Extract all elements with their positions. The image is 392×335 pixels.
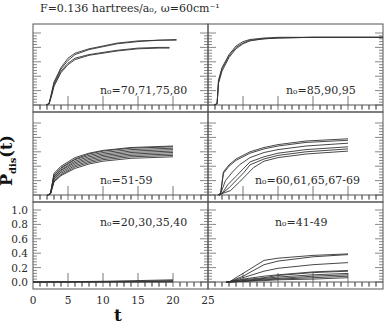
- y-tick-labels: 0.00.20.40.60.81.0: [11, 204, 28, 288]
- panel-label: n₀=51-59: [100, 174, 152, 187]
- panel-bottom-right: n₀=41-49: [208, 202, 383, 289]
- panel-bottom-left: n₀=20,30,35,40: [33, 202, 208, 289]
- y-tick-label: 1.0: [11, 204, 28, 216]
- y-tick-label: 0.4: [11, 247, 28, 259]
- panel-top-left: n₀=70,71,75,80: [33, 24, 208, 112]
- x-tick-label: 0: [30, 294, 37, 306]
- x-tick-label: 25: [201, 294, 214, 306]
- y-tick-label: 0.8: [11, 218, 28, 230]
- panel-label: n₀=20,30,35,40: [100, 216, 187, 229]
- series-line: [48, 147, 173, 195]
- panel-frame: [208, 112, 383, 202]
- panel-frame: [33, 24, 208, 112]
- x-tick-label: 5: [65, 294, 72, 306]
- y-tick-label: 0.0: [11, 276, 28, 288]
- y-tick-label: 0.6: [11, 233, 28, 245]
- x-tick-labels: 0510152025: [30, 294, 215, 306]
- panel-middle-right: n₀=60,61,65,67-69: [208, 112, 383, 202]
- panel-label: n₀=60,61,65,67-69: [255, 174, 360, 187]
- panel-frame: [33, 112, 208, 202]
- series-line: [219, 147, 348, 195]
- x-tick-label: 20: [166, 294, 179, 306]
- panel-grid: n₀=70,71,75,80n₀=85,90,95n₀=51-59n₀=60,6…: [33, 24, 383, 289]
- panel-label: n₀=85,90,95: [286, 84, 356, 97]
- figure-canvas: n₀=70,71,75,80n₀=85,90,95n₀=51-59n₀=60,6…: [0, 0, 392, 335]
- panel-middle-left: n₀=51-59: [33, 112, 208, 202]
- x-tick-label: 10: [96, 294, 109, 306]
- panel-top-right: n₀=85,90,95: [208, 24, 383, 112]
- y-tick-label: 0.2: [11, 262, 28, 274]
- x-tick-label: 15: [131, 294, 144, 306]
- series-line: [218, 143, 348, 195]
- panel-label: n₀=41-49: [275, 216, 327, 229]
- panel-label: n₀=70,71,75,80: [100, 84, 187, 97]
- series-line: [219, 149, 348, 195]
